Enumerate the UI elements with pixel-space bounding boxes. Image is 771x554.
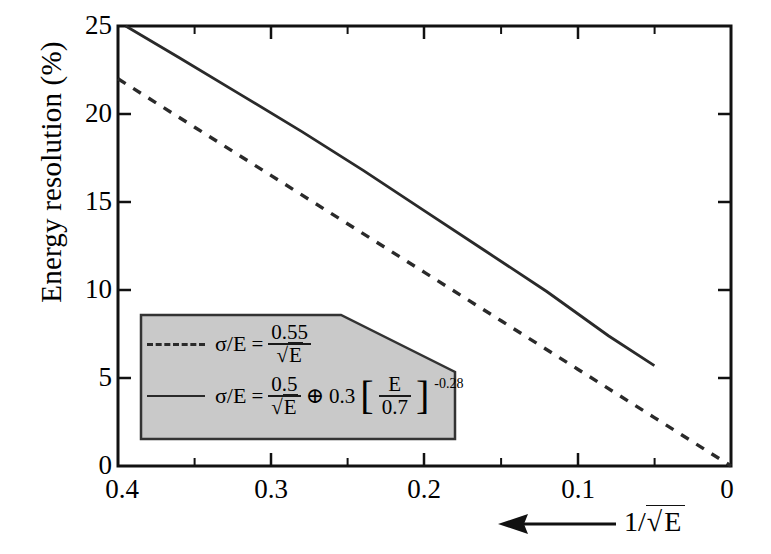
legend-numerator-1: 0.55 (268, 322, 311, 343)
x-tick-0p2: 0.2 (384, 476, 464, 503)
y-tick-labels: 25 20 15 10 5 0 (56, 0, 112, 554)
x-axis-label-text: 1/√E (624, 508, 685, 536)
legend-numerator-2: 0.5 (268, 374, 300, 395)
left-arrow-icon (498, 511, 616, 533)
x-tick-0p1: 0.1 (538, 476, 618, 503)
legend-equals-2: = (251, 384, 263, 409)
y-tick-10: 10 (66, 276, 112, 303)
legend-bracket-numerator: E (385, 374, 404, 395)
legend-denominator-1: √E (273, 345, 305, 366)
legend-fraction-1: 0.55 √E (268, 322, 311, 367)
dashed-line-swatch-icon (147, 343, 205, 346)
oplus-icon: ⊕ (306, 383, 324, 409)
legend-item-solid: σ/E = 0.5 √E ⊕ 0.3 [ E 0. (147, 370, 463, 422)
legend-fraction-2: 0.5 √E (268, 374, 300, 419)
legend-bracket-fraction: E 0.7 (379, 374, 411, 419)
legend-lhs-2: σ/E (215, 383, 246, 409)
legend-formula-dashed: σ/E = 0.55 √E (215, 322, 311, 367)
legend-denominator-2: √E (268, 397, 300, 418)
legend-box: σ/E = 0.55 √E σ/E = (139, 312, 457, 442)
legend-equals-1: = (251, 332, 263, 357)
bracket-left-icon: [ (360, 380, 373, 412)
plot-area (0, 0, 771, 554)
y-tick-20: 20 (66, 100, 112, 127)
bracket-right-icon: ] (416, 380, 429, 412)
legend-entries: σ/E = 0.55 √E σ/E = (139, 312, 457, 442)
y-tick-25: 25 (66, 12, 112, 39)
legend-coefficient-2: 0.3 (329, 384, 355, 409)
x-tick-0: 0 (687, 476, 767, 503)
solid-line-swatch-icon (147, 395, 205, 397)
legend-bracket-denominator: 0.7 (379, 397, 411, 418)
energy-resolution-chart: Energy resolution (%) 25 20 15 10 5 0 0.… (0, 0, 771, 554)
legend-exponent: -0.28 (434, 376, 463, 392)
x-tick-0p3: 0.3 (231, 476, 311, 503)
y-tick-5: 5 (66, 364, 112, 391)
y-tick-15: 15 (66, 188, 112, 215)
legend-lhs-1: σ/E (215, 331, 246, 357)
legend-formula-solid: σ/E = 0.5 √E ⊕ 0.3 [ E 0. (215, 374, 463, 419)
legend-item-dashed: σ/E = 0.55 √E (147, 318, 311, 370)
x-tick-0p4: 0.4 (82, 476, 162, 503)
x-axis-direction-note: 1/√E (498, 500, 728, 544)
